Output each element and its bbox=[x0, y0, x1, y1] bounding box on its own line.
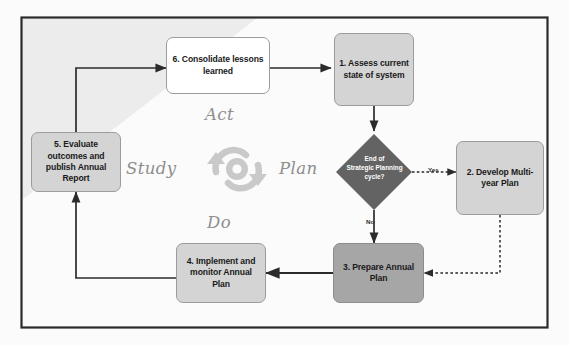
edge-label-yes: Yes bbox=[428, 166, 439, 173]
node-5-label: 5. Evaluate outcomes and publish Annual … bbox=[36, 139, 116, 185]
node-4-label: 4. Implement and monitor Annual Plan bbox=[181, 256, 261, 290]
node-4-implement-monitor-annual-plan[interactable]: 4. Implement and monitor Annual Plan bbox=[176, 243, 266, 303]
decision-diamond bbox=[336, 134, 412, 210]
quadrant-label-act: Act bbox=[205, 105, 234, 124]
node-1-label: 1. Assess current state of system bbox=[339, 58, 409, 81]
quadrant-label-plan: Plan bbox=[279, 159, 317, 178]
node-6-label: 6. Consolidate lessons learned bbox=[171, 54, 265, 77]
node-2-label: 2. Develop Multi-year Plan bbox=[461, 167, 539, 190]
quadrant-label-study: Study bbox=[126, 159, 176, 178]
node-3-label: 3. Prepare Annual Plan bbox=[338, 262, 419, 285]
node-5-evaluate-outcomes[interactable]: 5. Evaluate outcomes and publish Annual … bbox=[31, 132, 121, 192]
edge-label-no: No bbox=[366, 218, 374, 225]
arrow-n2-to-n3-dotted bbox=[424, 215, 500, 273]
quadrant-label-do: Do bbox=[207, 213, 231, 232]
diagram-canvas: 6. Consolidate lessons learned 1. Assess… bbox=[0, 0, 569, 345]
node-6-consolidate-lessons-learned[interactable]: 6. Consolidate lessons learned bbox=[166, 37, 270, 94]
arrow-n4-to-n5 bbox=[76, 192, 176, 278]
node-1-assess-current-state[interactable]: 1. Assess current state of system bbox=[334, 33, 414, 106]
node-3-prepare-annual-plan[interactable]: 3. Prepare Annual Plan bbox=[333, 243, 424, 303]
node-2-develop-multi-year-plan[interactable]: 2. Develop Multi-year Plan bbox=[456, 141, 544, 215]
